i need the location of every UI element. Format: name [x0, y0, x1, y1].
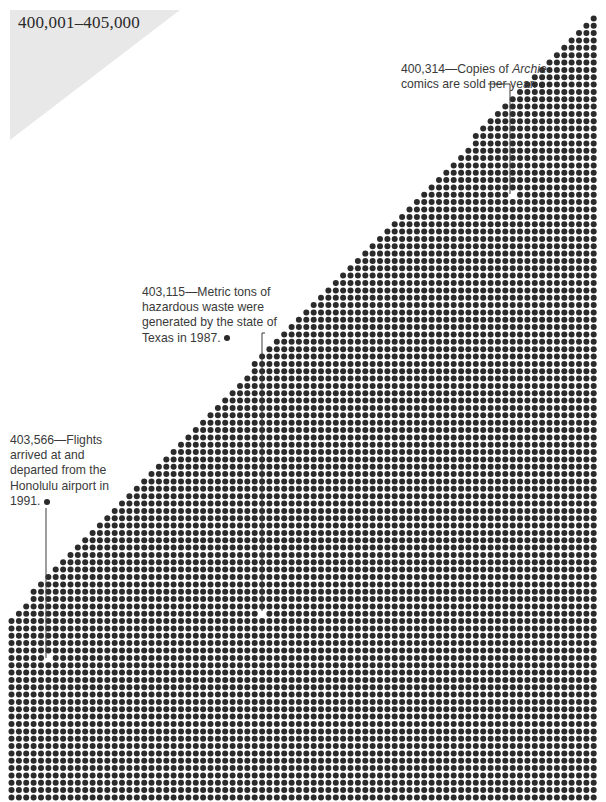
annotation-marker-icon: [539, 82, 545, 88]
annotation-honolulu-flights: 403,566—Flights arrived at and departed …: [10, 433, 140, 509]
annotation-archie: 400,314—Copies of Archiecomics are sold …: [401, 62, 591, 92]
annotation-texas-waste: 403,115—Metric tons of hazardous waste w…: [142, 285, 312, 346]
dot-matrix-chart: [0, 0, 606, 802]
annotation-archie-line2: comics are sold per year.: [401, 77, 536, 91]
annotation-archie-title: Archie: [512, 62, 547, 76]
annotation-marker-icon: [44, 499, 50, 505]
annotation-marker-icon: [224, 335, 230, 341]
annotation-archie-value: 400,314: [401, 62, 445, 76]
